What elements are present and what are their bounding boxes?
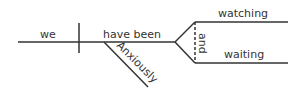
modifier-word: Anxiously	[114, 39, 161, 86]
branch-word-lower: waiting	[224, 48, 264, 61]
fork-lower	[175, 42, 195, 63]
branch-word-upper: watching	[218, 7, 268, 20]
conjunction-word: and	[196, 33, 209, 54]
subject-word: we	[40, 28, 56, 41]
verb-word: have been	[103, 28, 161, 41]
sentence-diagram: we have been Anxiously and watching wait…	[0, 0, 303, 98]
diagram-canvas: we have been Anxiously and watching wait…	[0, 0, 303, 98]
fork-upper	[175, 22, 195, 42]
